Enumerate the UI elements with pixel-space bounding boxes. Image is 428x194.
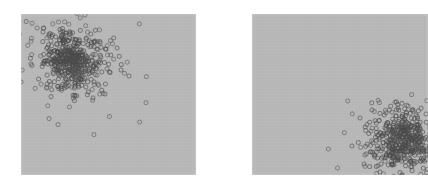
scatter-figure — [0, 0, 428, 194]
left-panel — [21, 14, 196, 175]
right-panel — [252, 14, 428, 175]
right-panel-scatter-canvas — [252, 14, 428, 175]
left-panel-scatter-canvas — [21, 14, 196, 175]
